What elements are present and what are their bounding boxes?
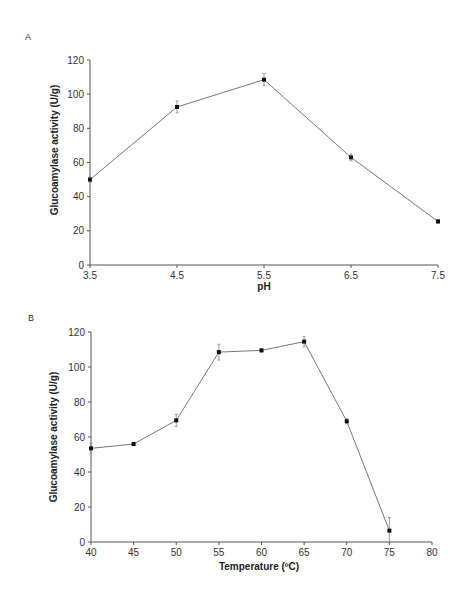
axes-b: 020406080100120404550556065707580 <box>68 327 438 559</box>
y-tick-label: 20 <box>74 502 86 513</box>
plot-area-a <box>88 74 440 224</box>
x-tick-label: 45 <box>128 547 140 558</box>
panel-label-b: B <box>28 313 34 323</box>
data-point-marker <box>302 340 306 344</box>
x-tick-label: 50 <box>171 547 183 558</box>
x-tick-label: 80 <box>426 547 438 558</box>
x-tick-label: 3.5 <box>83 270 97 281</box>
data-point-marker <box>132 442 136 446</box>
chart-panel-a: A Glucoamylase activity (U/g) pH 0204060… <box>25 32 445 292</box>
x-tick-label: 5.5 <box>257 270 271 281</box>
x-tick-label: 55 <box>213 547 225 558</box>
data-point-marker <box>260 348 264 352</box>
data-point-marker <box>345 419 349 423</box>
y-tick-label: 80 <box>74 397 86 408</box>
y-tick-label: 80 <box>73 123 85 134</box>
y-tick-label: 120 <box>68 327 85 338</box>
data-point-marker <box>436 219 440 223</box>
x-tick-label: 65 <box>299 547 311 558</box>
y-tick-label: 60 <box>73 157 85 168</box>
chart-panel-b: B Glucoamylase activity (U/g) Temperatur… <box>28 313 438 572</box>
data-point-marker <box>217 350 221 354</box>
y-tick-label: 100 <box>67 89 84 100</box>
series-line <box>91 342 389 531</box>
data-point-marker <box>89 446 93 450</box>
x-tick-label: 4.5 <box>170 270 184 281</box>
data-point-marker <box>262 78 266 82</box>
x-tick-label: 60 <box>256 547 268 558</box>
y-axis-title-a: Glucoamylase activity (U/g) <box>49 85 60 216</box>
plot-area-b <box>89 336 391 542</box>
axes-a: 0204060801001203.54.55.56.57.5 <box>67 55 445 282</box>
figure: A Glucoamylase activity (U/g) pH 0204060… <box>0 0 463 606</box>
panel-label-a: A <box>25 32 31 42</box>
x-axis-title-a: pH <box>257 281 270 292</box>
y-tick-label: 100 <box>68 362 85 373</box>
data-point-marker <box>174 418 178 422</box>
y-tick-label: 0 <box>79 537 85 548</box>
y-tick-label: 40 <box>74 467 86 478</box>
x-tick-label: 40 <box>85 547 97 558</box>
data-point-marker <box>349 155 353 159</box>
y-tick-label: 120 <box>67 55 84 66</box>
y-tick-label: 20 <box>73 225 85 236</box>
y-tick-label: 40 <box>73 191 85 202</box>
data-point-marker <box>387 529 391 533</box>
x-tick-label: 75 <box>384 547 396 558</box>
y-tick-label: 60 <box>74 432 86 443</box>
x-tick-label: 7.5 <box>431 270 445 281</box>
y-tick-label: 0 <box>78 260 84 271</box>
y-axis-title-b: Glucoamylase activity (U/g) <box>48 372 59 503</box>
data-point-marker <box>175 105 179 109</box>
x-axis-title-b: Temperature (ºC) <box>219 561 299 572</box>
series-line <box>90 80 438 222</box>
x-tick-label: 70 <box>341 547 353 558</box>
data-point-marker <box>88 178 92 182</box>
x-tick-label: 6.5 <box>344 270 358 281</box>
